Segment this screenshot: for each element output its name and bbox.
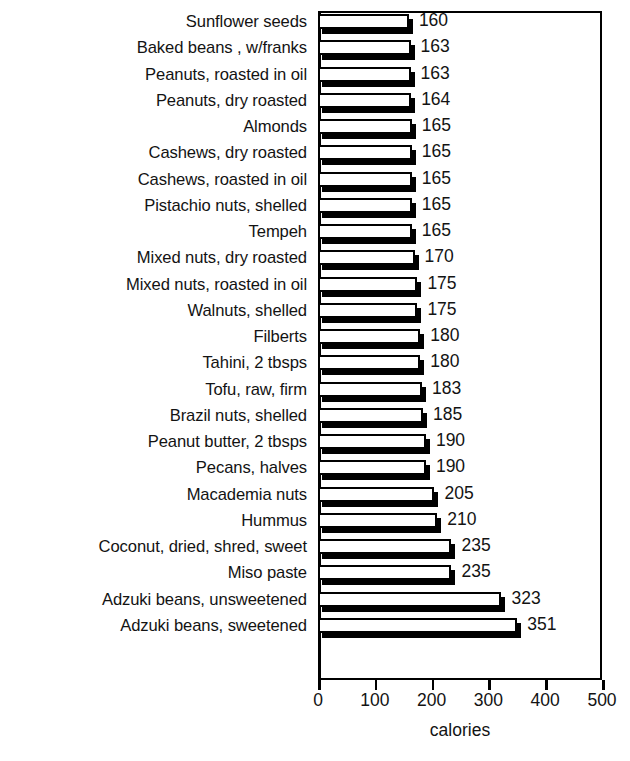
bar-value-label: 205 — [444, 485, 473, 503]
category-label: Miso paste — [0, 565, 307, 582]
bar-value-label: 190 — [436, 432, 465, 450]
bar-value-label: 165 — [422, 143, 451, 161]
bar: 351 — [318, 618, 630, 640]
bar-value-label: 164 — [421, 91, 450, 109]
category-label: Cashews, roasted in oil — [0, 172, 307, 189]
bar-face — [318, 303, 417, 318]
category-label: Peanut butter, 2 tbsps — [0, 434, 307, 451]
x-axis-title: calories — [318, 720, 602, 741]
bar: 160 — [318, 14, 630, 36]
bar: 163 — [318, 67, 630, 89]
x-tick-label: 200 — [417, 692, 446, 710]
bar-value-label: 235 — [461, 537, 490, 555]
bar-value-label: 183 — [432, 380, 461, 398]
bar: 185 — [318, 408, 630, 430]
bar-face — [318, 539, 451, 554]
x-tick-label: 500 — [587, 692, 616, 710]
bar-face — [318, 277, 417, 292]
bar: 323 — [318, 592, 630, 614]
bar: 163 — [318, 40, 630, 62]
bar-value-label: 170 — [425, 248, 454, 266]
bar: 165 — [318, 145, 630, 167]
bar: 183 — [318, 382, 630, 404]
bar-face — [318, 40, 411, 55]
x-tick-mark — [602, 680, 605, 690]
category-label: Coconut, dried, shred, sweet — [0, 539, 307, 556]
bar: 235 — [318, 539, 630, 561]
category-label: Sunflower seeds — [0, 14, 307, 31]
bar: 165 — [318, 119, 630, 141]
category-label: Tahini, 2 tbsps — [0, 355, 307, 372]
category-label: Adzuki beans, unsweetened — [0, 592, 307, 609]
bar-face — [318, 618, 517, 633]
x-tick-mark — [488, 680, 491, 690]
category-label: Pistachio nuts, shelled — [0, 198, 307, 215]
bar-value-label: 175 — [427, 301, 456, 319]
bar-face — [318, 145, 412, 160]
bar-value-label: 235 — [461, 563, 490, 581]
bar-face — [318, 382, 422, 397]
category-label: Mixed nuts, roasted in oil — [0, 277, 307, 294]
x-tick-label: 400 — [531, 692, 560, 710]
bar-value-label: 351 — [527, 616, 556, 634]
x-tick-label: 300 — [474, 692, 503, 710]
bar: 164 — [318, 93, 630, 115]
x-tick-label: 100 — [360, 692, 389, 710]
bar: 235 — [318, 565, 630, 587]
bar-face — [318, 67, 411, 82]
bar: 180 — [318, 329, 630, 351]
bars-layer: 1601631631641651651651651651701751751801… — [318, 11, 630, 680]
category-label: Brazil nuts, shelled — [0, 408, 307, 425]
bar-value-label: 180 — [430, 327, 459, 345]
category-label: Mixed nuts, dry roasted — [0, 250, 307, 267]
bar: 165 — [318, 172, 630, 194]
bar-value-label: 165 — [422, 222, 451, 240]
bar: 190 — [318, 434, 630, 456]
category-label: Tempeh — [0, 224, 307, 241]
bar: 175 — [318, 277, 630, 299]
bar-value-label: 323 — [511, 590, 540, 608]
category-label: Hummus — [0, 513, 307, 530]
bar-face — [318, 434, 426, 449]
bar: 210 — [318, 513, 630, 535]
bar: 205 — [318, 487, 630, 509]
category-label: Peanuts, dry roasted — [0, 93, 307, 110]
category-label: Almonds — [0, 119, 307, 136]
bar: 190 — [318, 460, 630, 482]
category-label: Baked beans , w/franks — [0, 40, 307, 57]
x-tick-mark — [545, 680, 548, 690]
bar-value-label: 163 — [421, 38, 450, 56]
bar-face — [318, 460, 426, 475]
bar: 180 — [318, 355, 630, 377]
x-tick-mark — [432, 680, 435, 690]
category-label: Peanuts, roasted in oil — [0, 67, 307, 84]
bar-face — [318, 355, 420, 370]
bar-value-label: 165 — [422, 117, 451, 135]
category-label: Macademia nuts — [0, 487, 307, 504]
bar-face — [318, 329, 420, 344]
category-label: Walnuts, shelled — [0, 303, 307, 320]
bar-face — [318, 250, 415, 265]
x-axis: calories 0100200300400500 — [318, 680, 602, 761]
category-label: Filberts — [0, 329, 307, 346]
bar-face — [318, 14, 409, 29]
x-tick-mark — [318, 680, 321, 690]
bar-face — [318, 408, 423, 423]
bar-face — [318, 565, 451, 580]
category-label: Cashews, dry roasted — [0, 145, 307, 162]
category-label: Pecans, halves — [0, 460, 307, 477]
bar-value-label: 185 — [433, 406, 462, 424]
bar: 175 — [318, 303, 630, 325]
x-tick-mark — [375, 680, 378, 690]
bar-value-label: 165 — [422, 196, 451, 214]
bar-value-label: 160 — [419, 12, 448, 30]
bar-value-label: 210 — [447, 511, 476, 529]
bar-face — [318, 513, 437, 528]
bar-chart: Sunflower seedsBaked beans , w/franksPea… — [0, 0, 630, 761]
bar-face — [318, 172, 412, 187]
category-label: Adzuki beans, sweetened — [0, 618, 307, 635]
category-label: Tofu, raw, firm — [0, 382, 307, 399]
bar-value-label: 163 — [421, 65, 450, 83]
bar-face — [318, 224, 412, 239]
bar-face — [318, 198, 412, 213]
